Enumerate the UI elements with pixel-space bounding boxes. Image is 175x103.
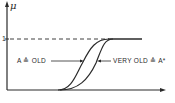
curve-very-old [60, 39, 113, 90]
curve-old [58, 39, 109, 90]
y-tick-label: 1 [2, 35, 6, 42]
curve-label-old: A ≙ OLD [17, 58, 46, 65]
x-axis-arrow-icon [160, 88, 166, 92]
leader-very-old [97, 60, 111, 63]
leader-old [51, 60, 84, 63]
curve-label-very-old: VERY OLD ≙ A* [113, 58, 166, 65]
membership-function-diagram: μ 1 A ≙ OLD VERY OLD ≙ A* [0, 0, 175, 103]
diagram-canvas [0, 0, 175, 103]
y-axis [5, 1, 9, 90]
y-axis-label: μ [10, 1, 17, 11]
x-axis [7, 88, 166, 92]
y-axis-arrow-icon [5, 1, 9, 7]
